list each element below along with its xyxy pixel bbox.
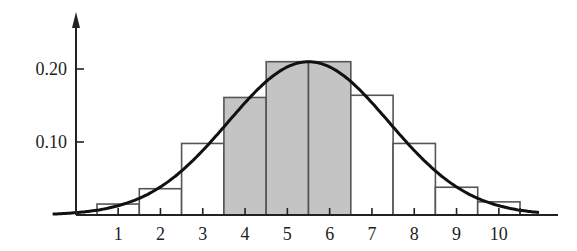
x-tick-label: 9 [452,224,461,244]
x-tick-label: 1 [114,224,123,244]
x-tick-label: 4 [241,224,250,244]
bar-8 [393,143,435,215]
x-tick-label: 6 [325,224,334,244]
x-tick-label: 5 [283,224,292,244]
bar-4 [224,97,266,215]
chart: 12345678910 0.100.20 [0,0,577,251]
y-axis-arrow-icon [72,12,80,28]
y-tick-label: 0.20 [36,59,68,79]
x-tick-label: 3 [198,224,207,244]
bar-6 [309,62,351,215]
x-tick-label: 7 [367,224,376,244]
bar-7 [351,95,393,215]
x-tick-label: 2 [156,224,165,244]
x-tick-label: 10 [490,224,508,244]
bar-3 [182,143,224,215]
bars-group [97,62,520,215]
bar-5 [266,62,308,215]
y-tick-label: 0.10 [36,132,68,152]
x-tick-label: 8 [410,224,419,244]
